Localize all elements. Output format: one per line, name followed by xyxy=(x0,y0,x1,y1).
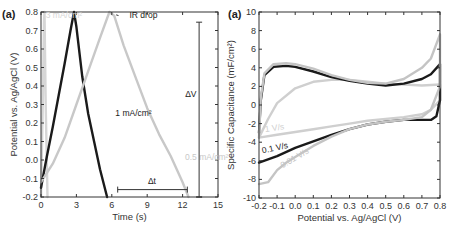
panel-label: (a) xyxy=(228,8,242,20)
annotation-label: 1 mA/cm² xyxy=(115,108,152,118)
x-tick-label: 12 xyxy=(178,200,188,210)
y-tick-label: 10 xyxy=(246,7,256,17)
x-tick-label: 0.7 xyxy=(416,201,429,211)
y-tick-label: 0.4 xyxy=(25,81,38,91)
y-tick-label: 0.5 xyxy=(25,63,38,73)
x-tick-label: 15 xyxy=(213,200,223,210)
chart-cyclic-voltammetry: -0.2-0.10.00.10.20.30.40.50.60.70.8-10-8… xyxy=(225,7,446,223)
annotation-label: 1 V/s xyxy=(264,121,285,134)
x-tick-label: 0.8 xyxy=(434,201,447,211)
y-axis-label: Specific Capacitance (mF/cm²) xyxy=(225,40,236,170)
x-tick-label: 6 xyxy=(109,200,114,210)
y-tick-label: -4 xyxy=(248,137,256,147)
x-tick-label: 0.3 xyxy=(343,201,356,211)
y-tick-label: -0.2 xyxy=(22,192,38,202)
y-tick-label: 0.6 xyxy=(25,44,38,54)
x-tick-label: 0.4 xyxy=(361,201,374,211)
y-tick-label: -0.1 xyxy=(22,174,38,184)
panel-label: (a) xyxy=(2,8,16,20)
x-axis-label: Potential vs. Ag/AgCl (V) xyxy=(297,212,401,223)
x-tick-label: 0 xyxy=(38,200,43,210)
x-tick-label: 0.2 xyxy=(325,201,338,211)
x-tick-label: 9 xyxy=(145,200,150,210)
x-tick-label: 0.1 xyxy=(307,201,320,211)
annotation-label: 3 mA/cm² xyxy=(46,10,83,20)
x-tick-label: 0.6 xyxy=(398,201,411,211)
y-tick-label: 0.7 xyxy=(25,26,38,36)
annotation-label: Δt xyxy=(148,176,157,186)
figure: 03691215-0.2-0.10.00.10.20.30.40.50.60.7… xyxy=(0,0,453,232)
x-tick-label: 3 xyxy=(74,200,79,210)
y-tick-label: 8 xyxy=(251,26,256,36)
series-line-1 xyxy=(41,12,107,197)
chart-galvanostatic-charge-discharge: 03691215-0.2-0.10.00.10.20.30.40.50.60.7… xyxy=(2,7,229,222)
y-tick-label: 4 xyxy=(251,63,256,73)
y-tick-label: -6 xyxy=(248,156,256,166)
x-tick-label: 0.5 xyxy=(379,201,392,211)
y-tick-label: 0 xyxy=(251,100,256,110)
series-line-2 xyxy=(41,12,189,197)
x-tick-label: -0.1 xyxy=(269,201,285,211)
plot-frame xyxy=(41,12,218,197)
y-tick-label: 2 xyxy=(251,81,256,91)
y-tick-label: 0.0 xyxy=(25,155,38,165)
annotation-label: 0.5 mA/cm² xyxy=(185,152,229,162)
y-tick-label: 0.1 xyxy=(25,137,38,147)
y-tick-label: 0.8 xyxy=(25,7,38,17)
arrow-icon xyxy=(116,15,118,16)
y-tick-label: 0.2 xyxy=(25,118,38,128)
annotation-label: IR drop xyxy=(130,10,158,20)
x-tick-label: 0.0 xyxy=(289,201,302,211)
y-axis-label: Potential vs. Ag/AgCl (V) xyxy=(8,52,19,156)
annotation-label: ΔV xyxy=(185,89,197,99)
y-tick-label: -10 xyxy=(243,193,256,203)
y-tick-label: -2 xyxy=(248,119,256,129)
plot-frame xyxy=(259,12,440,198)
x-axis-label: Time (s) xyxy=(112,211,146,222)
y-tick-label: 6 xyxy=(251,44,256,54)
y-tick-label: 0.3 xyxy=(25,100,38,110)
y-tick-label: -8 xyxy=(248,174,256,184)
